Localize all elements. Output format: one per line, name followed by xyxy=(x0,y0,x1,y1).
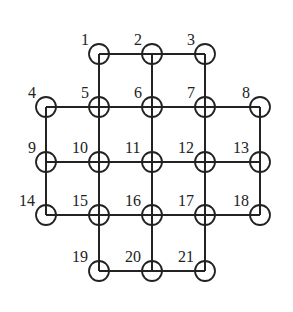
node-label: 2 xyxy=(134,31,142,48)
node-13: 13 xyxy=(233,139,270,172)
node-label: 9 xyxy=(28,139,36,156)
node-label: 8 xyxy=(242,84,250,101)
node-label: 13 xyxy=(233,139,249,156)
node-10: 10 xyxy=(72,139,109,172)
node-label: 20 xyxy=(125,248,141,265)
node-4: 4 xyxy=(28,84,56,117)
node-5: 5 xyxy=(81,84,109,117)
node-12: 12 xyxy=(178,139,215,172)
node-9: 9 xyxy=(28,139,56,172)
node-15: 15 xyxy=(72,192,109,225)
node-label: 4 xyxy=(28,84,36,101)
node-2: 2 xyxy=(134,31,162,64)
node-label: 12 xyxy=(178,139,194,156)
node-label: 16 xyxy=(125,192,141,209)
node-21: 21 xyxy=(178,248,215,281)
node-label: 5 xyxy=(81,84,89,101)
node-3: 3 xyxy=(187,31,215,64)
node-6: 6 xyxy=(134,84,162,117)
node-20: 20 xyxy=(125,248,162,281)
node-label: 1 xyxy=(81,31,89,48)
node-18: 18 xyxy=(233,192,270,225)
node-7: 7 xyxy=(187,84,215,117)
node-17: 17 xyxy=(178,192,215,225)
node-1: 1 xyxy=(81,31,109,64)
node-label: 7 xyxy=(187,84,195,101)
node-label: 6 xyxy=(134,84,142,101)
node-label: 17 xyxy=(178,192,194,209)
edges-layer xyxy=(46,54,260,271)
node-label: 11 xyxy=(125,139,140,156)
node-11: 11 xyxy=(125,139,162,172)
node-19: 19 xyxy=(72,248,109,281)
node-label: 10 xyxy=(72,139,88,156)
node-14: 14 xyxy=(19,192,56,225)
grid-graph-diagram: 123456789101112131415161718192021 xyxy=(0,0,293,312)
node-label: 14 xyxy=(19,192,35,209)
node-16: 16 xyxy=(125,192,162,225)
node-label: 15 xyxy=(72,192,88,209)
node-label: 18 xyxy=(233,192,249,209)
node-label: 19 xyxy=(72,248,88,265)
node-8: 8 xyxy=(242,84,270,117)
nodes-layer: 123456789101112131415161718192021 xyxy=(19,31,270,281)
node-label: 3 xyxy=(187,31,195,48)
node-label: 21 xyxy=(178,248,194,265)
